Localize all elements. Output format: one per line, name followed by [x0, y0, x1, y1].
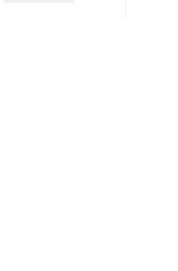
puzzle-canvas: [0, 0, 178, 271]
diamond-grids: [0, 0, 178, 271]
